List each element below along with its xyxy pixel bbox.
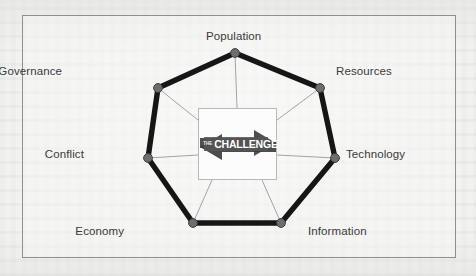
diagram-page: THE CHALLENGE Population Resources Techn… [0,0,476,276]
spoke-technology [277,155,335,158]
node-resources [316,84,325,93]
node-information [277,219,286,228]
node-label-population: Population [206,30,261,42]
node-governance [154,84,163,93]
node-conflict [144,154,153,163]
spoke-governance [158,88,198,120]
edge-governance-population [158,53,235,88]
edge-economy-conflict [148,158,193,223]
node-technology [331,154,340,163]
spoke-resources [277,88,320,120]
node-economy [189,219,198,228]
node-label-information: Information [308,225,367,237]
spoke-conflict [148,155,198,158]
spoke-economy [193,180,212,223]
node-label-governance: Governance [0,65,62,77]
challenge-banner-icon [196,124,280,164]
edge-resources-technology [320,88,335,158]
node-label-conflict: Conflict [45,148,84,160]
spoke-population [235,53,237,108]
edge-conflict-governance [148,88,158,158]
node-label-technology: Technology [346,148,405,160]
spoke-information [262,180,281,223]
node-label-resources: Resources [336,65,392,77]
edge-population-resources [235,53,320,88]
node-label-economy: Economy [75,225,124,237]
node-population [231,49,240,58]
edge-technology-information [281,158,335,223]
